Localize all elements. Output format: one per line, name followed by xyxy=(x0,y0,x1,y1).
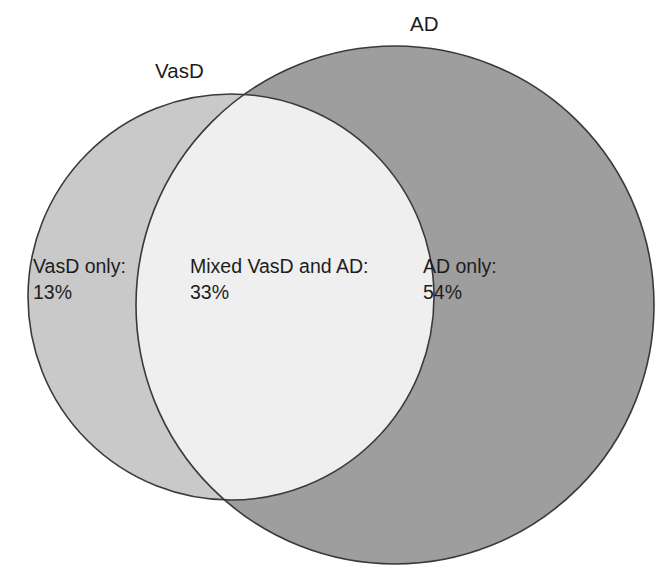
region-caption-ad-only: AD only: xyxy=(423,254,497,280)
set-title-vasd: VasD xyxy=(155,61,204,82)
venn-diagram-figure: VasD AD VasD only: 13% Mixed VasD and AD… xyxy=(0,0,669,584)
region-caption-mixed: Mixed VasD and AD: xyxy=(190,254,368,280)
region-label-vasd-only: VasD only: 13% xyxy=(33,254,126,305)
region-label-mixed: Mixed VasD and AD: 33% xyxy=(190,254,368,305)
set-title-ad: AD xyxy=(410,14,439,35)
region-value-ad-only: 54% xyxy=(423,280,497,306)
region-value-mixed: 33% xyxy=(190,280,368,306)
region-value-vasd-only: 13% xyxy=(33,280,126,306)
region-label-ad-only: AD only: 54% xyxy=(423,254,497,305)
region-caption-vasd-only: VasD only: xyxy=(33,254,126,280)
